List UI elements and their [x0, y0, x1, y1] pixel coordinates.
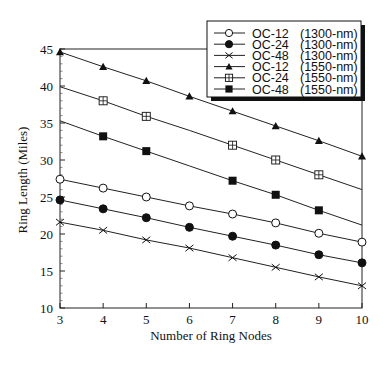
- filled-square-marker: [229, 177, 237, 185]
- y-tick-label: 35: [40, 116, 53, 131]
- x-marker: [315, 274, 323, 280]
- filled-square-marker: [315, 206, 323, 214]
- x-tick-label: 5: [143, 312, 150, 327]
- x-tick-label: 3: [57, 312, 64, 327]
- x-axis-label: Number of Ring Nodes: [150, 328, 272, 343]
- x-tick-label: 8: [272, 312, 279, 327]
- x-marker: [229, 254, 237, 260]
- x-tick-label: 9: [316, 312, 323, 327]
- y-tick-label: 40: [40, 79, 53, 94]
- filled-square-marker: [99, 132, 107, 140]
- x-tick-label: 7: [229, 312, 236, 327]
- x-marker: [99, 227, 107, 233]
- triangle-marker: [358, 152, 366, 159]
- filled-circle-marker: [185, 223, 193, 231]
- y-tick-label: 45: [40, 42, 53, 57]
- open-circle-marker: [142, 193, 150, 201]
- triangle-marker: [185, 92, 193, 99]
- filled-circle-marker: [142, 214, 150, 222]
- x-tick-label: 4: [100, 312, 107, 327]
- filled-circle-marker: [315, 251, 323, 259]
- y-tick-label: 25: [40, 190, 53, 205]
- filled-square-marker: [225, 85, 232, 92]
- x-tick-label: 10: [356, 312, 369, 327]
- legend-wavelength: (1550-nm): [300, 83, 358, 97]
- open-circle-marker: [56, 175, 64, 183]
- open-circle-marker: [358, 238, 366, 246]
- open-circle-marker: [225, 29, 232, 36]
- triangle-marker: [99, 63, 107, 70]
- filled-circle-marker: [56, 196, 64, 204]
- open-circle-marker: [99, 184, 107, 192]
- filled-circle-marker: [225, 41, 232, 48]
- open-circle-marker: [185, 202, 193, 210]
- triangle-marker: [272, 122, 280, 129]
- triangle-marker: [315, 137, 323, 144]
- y-tick-label: 30: [40, 153, 53, 168]
- filled-square-marker: [142, 147, 150, 155]
- x-marker: [272, 264, 280, 270]
- filled-circle-marker: [99, 205, 107, 213]
- y-tick-label: 20: [40, 227, 53, 242]
- triangle-marker: [229, 107, 237, 114]
- y-axis-label: Ring Length (Miles): [15, 127, 30, 234]
- x-tick-label: 6: [186, 312, 193, 327]
- filled-square-marker: [272, 191, 280, 199]
- y-tick-label: 15: [40, 264, 53, 279]
- filled-circle-marker: [272, 241, 280, 249]
- open-circle-marker: [272, 219, 280, 227]
- open-circle-marker: [315, 229, 323, 237]
- x-marker: [185, 245, 193, 251]
- y-tick-label: 10: [40, 301, 53, 316]
- filled-circle-marker: [229, 232, 237, 240]
- filled-circle-marker: [358, 259, 366, 267]
- x-marker: [142, 237, 150, 243]
- legend: OC-12(1300-nm)OC-24(1300-nm)OC-48(1300-n…: [207, 21, 365, 101]
- legend-rate: OC-48: [252, 83, 289, 97]
- ring-length-chart: 1015202530354045345678910 OC-12(1300-nm)…: [0, 0, 388, 365]
- open-circle-marker: [229, 210, 237, 218]
